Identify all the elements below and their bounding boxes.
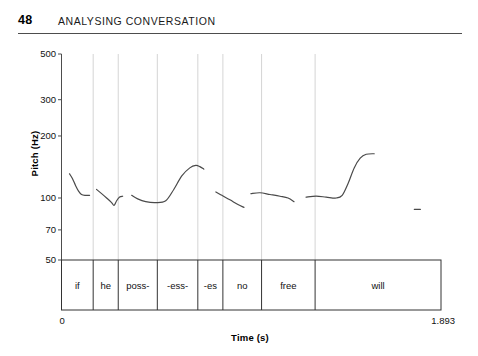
y-axis-tick-label: 500 (22, 49, 56, 59)
page-canvas: 48 ANALYSING CONVERSATION Pitch (Hz) Tim… (0, 0, 478, 356)
pitch-trace-segment (70, 174, 90, 196)
x-axis-max-label: 1.893 (411, 316, 455, 326)
pitch-trace-segment (306, 154, 374, 198)
pitch-trace-segment (97, 189, 123, 205)
y-axis-tick-label: 100 (22, 193, 56, 203)
y-axis-tick-label: 50 (22, 255, 56, 265)
plot-area (0, 0, 478, 356)
annotation-cell-label: will (348, 281, 408, 291)
y-axis-tick-label: 300 (22, 95, 56, 105)
pitch-trace-segment (132, 165, 204, 202)
pitch-trace-segment (216, 192, 244, 207)
pitch-contour-figure: Pitch (Hz) Time (s) 5003002001007050ifhe… (0, 0, 478, 356)
pitch-trace-segment (251, 193, 294, 202)
x-axis-min-label: 0 (60, 316, 65, 326)
annotation-cell-label: free (258, 281, 318, 291)
y-axis-tick-label: 200 (22, 131, 56, 141)
y-axis-tick-label: 70 (22, 225, 56, 235)
